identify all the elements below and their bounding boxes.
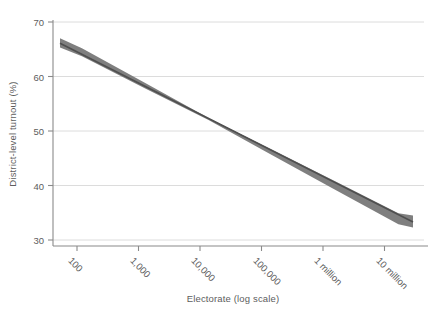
y-tick-label-60: 60 — [22, 72, 44, 83]
axis-spines — [53, 20, 428, 246]
x-tick-marks — [77, 246, 385, 251]
chart-plot-area — [0, 0, 436, 321]
chart-figure: 70 60 50 40 30 100 1,000 10,000 100,000 … — [0, 0, 436, 321]
y-axis-title: District-level turnout (%) — [6, 25, 20, 243]
y-tick-marks — [48, 22, 53, 240]
y-tick-label-70: 70 — [22, 17, 44, 28]
y-tick-label-30: 30 — [22, 235, 44, 246]
y-tick-label-50: 50 — [22, 126, 44, 137]
fitted-line — [60, 43, 413, 222]
x-axis-title: Electorate (log scale) — [52, 293, 414, 304]
prediction-line — [60, 43, 413, 222]
y-tick-label-40: 40 — [22, 181, 44, 192]
